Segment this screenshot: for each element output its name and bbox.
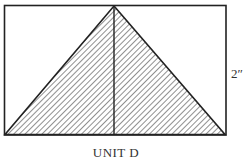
height-dimension-label: 2″ — [231, 66, 243, 82]
unit-d-diagram — [0, 0, 245, 165]
diagram-caption: UNIT D — [0, 145, 232, 161]
hatched-triangle — [5, 6, 225, 135]
